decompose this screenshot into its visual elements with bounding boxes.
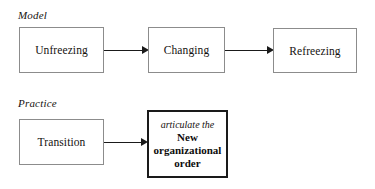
arrow-transition-to-outcome <box>104 138 148 147</box>
outcome-line-2: organizational <box>154 144 222 157</box>
arrow-shaft <box>104 142 141 143</box>
arrow-unfreezing-to-changing <box>104 46 149 55</box>
node-transition[interactable]: Transition <box>19 119 104 165</box>
node-new-organizational-order[interactable]: articulate the New organizational order <box>147 110 228 178</box>
arrow-changing-to-refreezing <box>225 46 274 55</box>
diagram-canvas: Model Unfreezing Changing Refreezing Pra… <box>0 0 375 189</box>
node-unfreezing[interactable]: Unfreezing <box>19 27 104 73</box>
outcome-lead-label: articulate the <box>161 119 215 131</box>
node-refreezing-label: Refreezing <box>289 44 340 58</box>
row-caption-practice: Practice <box>18 97 57 110</box>
node-changing-label: Changing <box>164 43 210 57</box>
arrow-shaft <box>225 50 267 51</box>
outcome-line-1: New <box>177 131 198 144</box>
node-unfreezing-label: Unfreezing <box>35 43 88 57</box>
outcome-line-3: order <box>174 157 200 170</box>
node-refreezing[interactable]: Refreezing <box>273 28 357 73</box>
node-changing[interactable]: Changing <box>148 27 225 73</box>
node-transition-label: Transition <box>38 135 86 149</box>
row-caption-model: Model <box>18 9 47 22</box>
arrow-shaft <box>104 50 142 51</box>
